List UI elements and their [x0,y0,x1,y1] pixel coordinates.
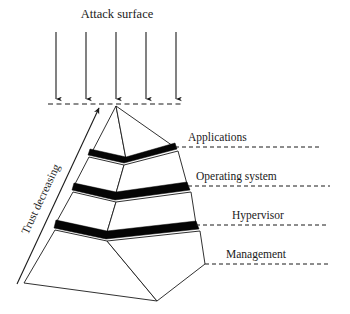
attack-arrow-group [56,32,176,99]
pyramid-illustration: Trust decreasing Attack surface Applicat… [0,0,350,314]
tier-management-solid [24,230,205,301]
attack-surface-pyramid-diagram: Trust decreasing Attack surface Applicat… [0,0,350,314]
tier-label-operating-system: Operating system [196,170,277,183]
tier-label-applications: Applications [188,131,247,144]
tier-label-hypervisor: Hypervisor [232,209,284,222]
figure-title: Attack surface [81,7,154,21]
tier-label-management: Management [226,248,287,261]
